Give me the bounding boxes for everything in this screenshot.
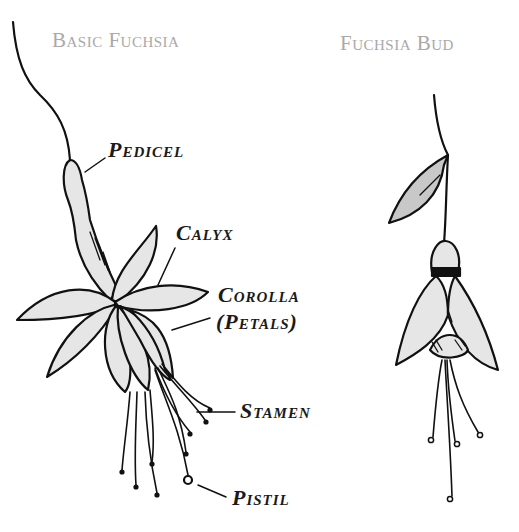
bud-leaf xyxy=(389,155,448,223)
label-pistil: Pistil xyxy=(232,485,290,511)
label-calyx: Calyx xyxy=(176,220,233,246)
label-stamen: Stamen xyxy=(240,398,311,424)
label-corolla: Corolla xyxy=(218,282,300,308)
pedicel-shape xyxy=(64,160,118,300)
label-pedicel: Pedicel xyxy=(108,137,184,163)
fuchsia-diagram xyxy=(0,0,519,532)
bud-collar xyxy=(432,268,460,276)
title-basic-fuchsia: Basic Fuchsia xyxy=(52,28,179,53)
title-fuchsia-bud: Fuchsia Bud xyxy=(340,31,454,56)
label-petals: (Petals) xyxy=(216,309,298,335)
pistil-tip xyxy=(184,476,192,484)
